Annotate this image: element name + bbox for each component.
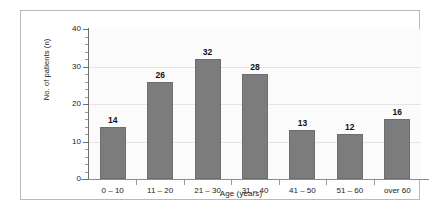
x-axis-tick <box>279 180 280 185</box>
bar <box>100 127 126 180</box>
y-axis-minor-tick <box>85 119 88 120</box>
bar <box>195 59 221 179</box>
bar-value-label: 32 <box>188 47 228 57</box>
x-axis-tick <box>184 180 185 185</box>
y-axis-tick-label: 40 <box>59 24 81 33</box>
y-axis-minor-tick <box>85 74 88 75</box>
y-axis-tick <box>83 67 88 68</box>
y-axis-minor-tick <box>85 127 88 128</box>
bar-value-label: 14 <box>93 115 133 125</box>
bar-value-label: 12 <box>330 122 370 132</box>
y-axis-tick <box>83 179 88 180</box>
y-axis-minor-tick <box>85 112 88 113</box>
y-axis-minor-tick <box>85 82 88 83</box>
y-axis-tick-label: 0 <box>59 174 81 183</box>
y-axis-minor-tick <box>85 89 88 90</box>
y-axis-minor-tick <box>85 149 88 150</box>
y-axis-minor-tick <box>85 157 88 158</box>
bar-value-label: 28 <box>235 62 275 72</box>
x-axis-tick <box>326 180 327 185</box>
y-axis-minor-tick <box>85 164 88 165</box>
y-axis-line <box>88 28 89 180</box>
plot-area <box>89 29 421 179</box>
x-axis-tick <box>136 180 137 185</box>
y-axis-tick-label: 30 <box>59 62 81 71</box>
bar <box>147 82 173 180</box>
x-axis-tick <box>231 180 232 185</box>
figure: No. of patients (n) Age (years) 01020304… <box>0 0 438 218</box>
y-axis-tick <box>83 29 88 30</box>
y-axis-title: No. of patients (n) <box>42 15 51 125</box>
y-axis-tick-label: 20 <box>59 99 81 108</box>
bar <box>384 119 410 179</box>
x-axis-category-label: over 60 <box>367 186 427 195</box>
y-axis-minor-tick <box>85 52 88 53</box>
y-axis-minor-tick <box>85 134 88 135</box>
y-axis-minor-tick <box>85 37 88 38</box>
x-axis-line <box>81 179 429 180</box>
figure-frame: No. of patients (n) Age (years) 01020304… <box>20 10 420 200</box>
bar <box>337 134 363 179</box>
bar-value-label: 16 <box>377 107 417 117</box>
y-axis-minor-tick <box>85 97 88 98</box>
bar <box>289 130 315 179</box>
y-axis-minor-tick <box>85 59 88 60</box>
x-axis-tick <box>374 180 375 185</box>
y-axis-tick-label: 10 <box>59 137 81 146</box>
y-axis-tick <box>83 142 88 143</box>
y-axis-minor-tick <box>85 172 88 173</box>
bar <box>242 74 268 179</box>
bar-value-label: 26 <box>140 70 180 80</box>
y-axis-tick <box>83 104 88 105</box>
y-axis-minor-tick <box>85 44 88 45</box>
bar-value-label: 13 <box>282 118 322 128</box>
